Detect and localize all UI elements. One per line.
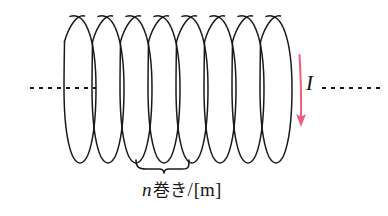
solenoid-diagram-canvas bbox=[0, 0, 388, 216]
coil-turn bbox=[204, 16, 236, 163]
solenoid-figure: I n巻き/[m] bbox=[0, 0, 388, 216]
solenoid-coil bbox=[64, 16, 292, 163]
turns-brace bbox=[136, 160, 189, 173]
coil-turn bbox=[232, 16, 264, 163]
coil-turn bbox=[148, 16, 180, 163]
current-arrow-shaft bbox=[300, 55, 302, 118]
current-arrow bbox=[296, 55, 306, 127]
coil-turn bbox=[260, 16, 292, 163]
coil-turn bbox=[176, 16, 208, 163]
coil-turn bbox=[64, 16, 96, 163]
coil-turn bbox=[92, 16, 124, 163]
coil-turn bbox=[120, 16, 152, 163]
